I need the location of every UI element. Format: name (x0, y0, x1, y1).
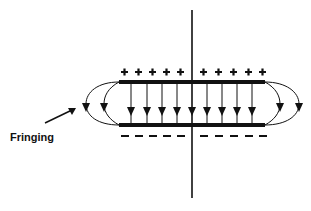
fringing-pointer-arrow (45, 108, 76, 123)
capacitor-fringing-diagram (0, 0, 311, 211)
fringing-label: Fringing (10, 131, 54, 143)
top-plate (119, 80, 265, 84)
positive-charges (121, 69, 266, 76)
fringe-field-lines-left (82, 82, 119, 125)
bottom-plate (119, 123, 265, 127)
fringe-field-lines-right (265, 82, 303, 125)
